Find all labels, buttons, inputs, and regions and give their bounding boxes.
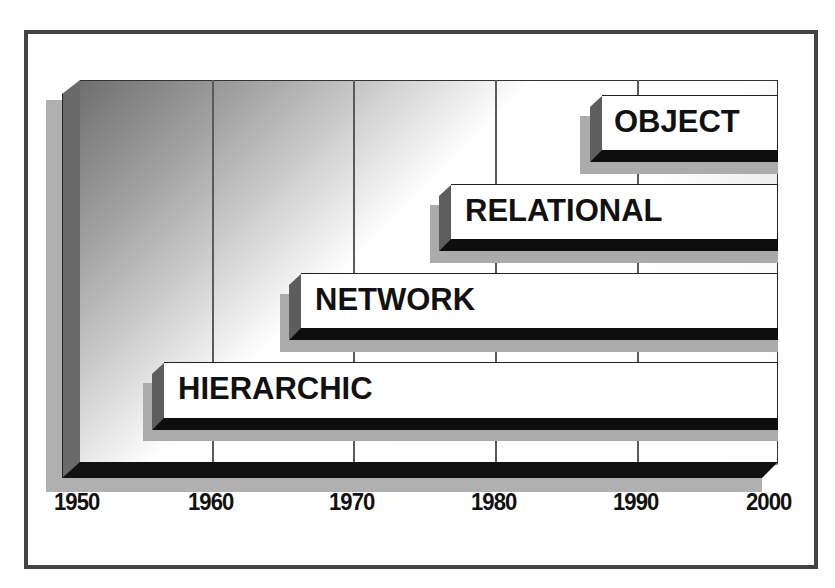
x-tick-1960: 1960 bbox=[188, 488, 233, 516]
wall-side-face bbox=[62, 80, 81, 478]
bar-label-network: NETWORK bbox=[315, 282, 475, 318]
bar-bottom bbox=[590, 150, 778, 162]
bar-label-relational: RELATIONAL bbox=[465, 193, 662, 229]
chart-floor bbox=[62, 462, 778, 478]
bar-label-object: OBJECT bbox=[614, 104, 740, 140]
bar-bottom bbox=[152, 418, 778, 430]
bar-bottom bbox=[289, 328, 778, 340]
x-tick-1970: 1970 bbox=[329, 488, 374, 516]
bar-bottom bbox=[439, 239, 778, 251]
wall-shadow bbox=[46, 100, 64, 485]
x-tick-2000: 2000 bbox=[746, 488, 791, 516]
x-tick-1990: 1990 bbox=[613, 488, 658, 516]
bar-label-hierarchic: HIERARCHIC bbox=[178, 371, 373, 407]
x-tick-1950: 1950 bbox=[54, 488, 99, 516]
x-tick-1980: 1980 bbox=[471, 488, 516, 516]
